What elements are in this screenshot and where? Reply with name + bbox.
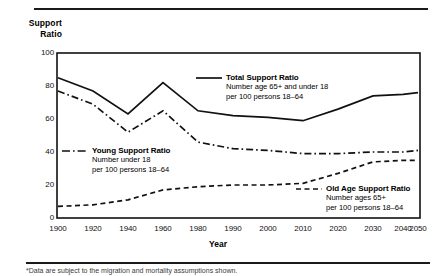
x-tick-2030: 2030 xyxy=(356,224,390,233)
y-tick-0: 0 xyxy=(28,213,54,222)
legend-total-title: Total Support Ratio xyxy=(226,73,299,82)
y-tick-20: 20 xyxy=(28,180,54,189)
x-axis-title: Year xyxy=(0,239,436,249)
x-tick-1900: 1900 xyxy=(41,224,75,233)
legend-old-line1: Number ages 65+ xyxy=(326,193,410,202)
x-tick-2010: 2010 xyxy=(286,224,320,233)
legend-total-support-ratio: Total Support Ratio Number age 65+ and u… xyxy=(196,73,328,101)
chart-plot-area xyxy=(0,0,436,276)
legend-young-line1: Number under 18 xyxy=(92,155,170,164)
x-tick-1990: 1990 xyxy=(216,224,250,233)
y-tick-40: 40 xyxy=(28,147,54,156)
x-tick-2050: 2050 xyxy=(401,224,435,233)
dashed-line-swatch-icon xyxy=(296,185,322,193)
dash-dot-line-swatch-icon xyxy=(62,147,88,155)
y-tick-60: 60 xyxy=(28,114,54,123)
solid-line-swatch-icon xyxy=(196,74,222,82)
y-tick-100: 100 xyxy=(28,48,54,57)
legend-old-age-support-ratio: Old Age Support Ratio Number ages 65+ pe… xyxy=(296,184,410,212)
legend-total-line2: per 100 persons 18–64 xyxy=(226,92,328,101)
x-tick-1960: 1960 xyxy=(146,224,180,233)
legend-young-line2: per 100 persons 18–64 xyxy=(92,165,170,174)
footnote-text: *Data are subject to the migration and m… xyxy=(26,266,430,276)
x-tick-1920: 1920 xyxy=(76,224,110,233)
x-tick-2020: 2020 xyxy=(321,224,355,233)
legend-old-line2: per 100 persons 18–64 xyxy=(326,203,410,212)
legend-young-support-ratio: Young Support Ratio Number under 18 per … xyxy=(62,146,170,174)
legend-young-title: Young Support Ratio xyxy=(92,146,170,155)
x-tick-1980: 1980 xyxy=(181,224,215,233)
legend-total-line1: Number age 65+ and under 18 xyxy=(226,82,328,91)
x-tick-1940: 1940 xyxy=(111,224,145,233)
legend-old-title: Old Age Support Ratio xyxy=(326,184,410,193)
x-tick-2000: 2000 xyxy=(251,224,285,233)
chart-svg xyxy=(0,0,436,276)
footer-divider xyxy=(26,262,430,264)
y-tick-80: 80 xyxy=(28,81,54,90)
